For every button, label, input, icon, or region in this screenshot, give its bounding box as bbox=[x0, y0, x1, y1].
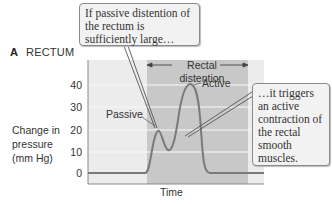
y-axis-label-line: Change in bbox=[12, 123, 60, 137]
y-axis-label-line: (mm Hg) bbox=[12, 151, 60, 165]
panel-letter: A bbox=[10, 46, 18, 58]
panel-title: RECTUM bbox=[26, 46, 74, 58]
y-tick-30: 30 bbox=[62, 101, 82, 113]
distention-label-line: Rectal bbox=[172, 59, 232, 72]
y-tick-0: 0 bbox=[62, 167, 82, 179]
callout-active-contraction: …it triggers an active contraction of th… bbox=[252, 83, 330, 166]
y-tick-20: 20 bbox=[62, 124, 82, 136]
y-tick-10: 10 bbox=[62, 146, 82, 158]
active-label: Active bbox=[202, 77, 231, 89]
y-tick-40: 40 bbox=[62, 79, 82, 91]
passive-label: Passive bbox=[106, 108, 143, 120]
y-axis-label: Change in pressure (mm Hg) bbox=[12, 123, 60, 165]
callout-passive-distention: If passive distention of the rectum is s… bbox=[79, 3, 200, 46]
y-axis-label-line: pressure bbox=[12, 137, 60, 151]
x-axis-label: Time bbox=[160, 186, 183, 198]
